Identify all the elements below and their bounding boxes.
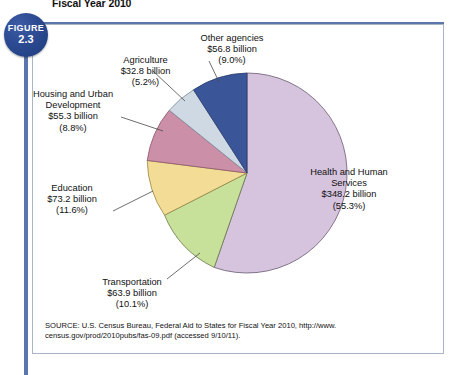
figure-badge-word: FIGURE <box>4 23 48 33</box>
pie-label-housing-and-urban-development: Housing and Urban Development $55.3 bill… <box>25 89 121 134</box>
pie-label-hud-percent: (8.8%) <box>25 123 121 134</box>
figure-panel: Other agencies $56.8 billion (9.0%) Agri… <box>32 24 444 354</box>
figure-title: Federal Aid to State and Local Governmen… <box>52 0 452 9</box>
pie-label-hhs-name-1: Health and Human <box>283 167 415 178</box>
figure-badge: FIGURE 2.3 <box>4 13 48 57</box>
pie-label-education-percent: (11.6%) <box>27 205 117 216</box>
pie-label-health-and-human-services: Health and Human Services $348.2 billion… <box>283 167 415 212</box>
pie-label-transportation-name: Transportation <box>77 277 187 288</box>
pie-label-hhs-name-2: Services <box>283 178 415 189</box>
pie-label-transportation-percent: (10.1%) <box>77 299 187 310</box>
source-note-line-1: SOURCE: U.S. Census Bureau, Federal Aid … <box>45 321 435 331</box>
pie-label-agriculture-percent: (5.2%) <box>83 77 208 88</box>
pie-label-agriculture-value: $32.8 billion <box>83 66 208 77</box>
source-note: SOURCE: U.S. Census Bureau, Federal Aid … <box>45 321 435 341</box>
figure-title-line-2: Fiscal Year 2010 <box>52 0 452 9</box>
pie-label-other-agencies-value: $56.8 billion <box>162 44 302 55</box>
pie-label-other-agencies-name: Other agencies <box>162 33 302 44</box>
pie-label-hud-name-2: Development <box>25 100 121 111</box>
pie-label-agriculture: Agriculture $32.8 billion (5.2%) <box>83 55 208 89</box>
pie-label-education-value: $73.2 billion <box>27 194 117 205</box>
pie-label-agriculture-name: Agriculture <box>83 55 208 66</box>
leader-line-transportation <box>167 253 200 279</box>
pie-label-transportation-value: $63.9 billion <box>77 288 187 299</box>
pie-label-hud-value: $55.3 billion <box>25 111 121 122</box>
leader-line-housing-and-urban-development <box>121 117 163 131</box>
leader-line-education <box>113 191 153 211</box>
pie-label-hhs-value: $348.2 billion <box>283 189 415 200</box>
source-note-line-2: census.gov/prod/2010pubs/fas-09.pdf (acc… <box>45 331 435 341</box>
pie-label-education: Education $73.2 billion (11.6%) <box>27 183 117 217</box>
pie-label-hhs-percent: (55.3%) <box>283 201 415 212</box>
pie-label-transportation: Transportation $63.9 billion (10.1%) <box>77 277 187 311</box>
figure-badge-number: 2.3 <box>4 34 48 45</box>
pie-label-education-name: Education <box>27 183 117 194</box>
pie-label-hud-name-1: Housing and Urban <box>25 89 121 100</box>
